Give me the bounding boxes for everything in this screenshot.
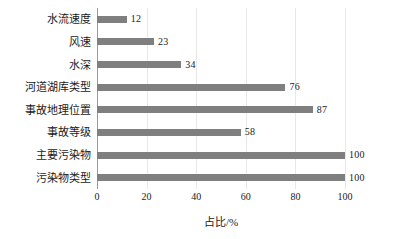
bar-chart: 水流速度风速水深河道湖库类型事故地理位置事故等级主要污染物污染物类型 12233… [0,0,408,239]
gridline [147,8,148,189]
x-axis-title: 占比/% [97,217,345,228]
gridline [196,8,197,189]
category-label: 河道湖库类型 [25,82,91,93]
bar-value-label: 76 [289,82,299,92]
bar-value-label: 100 [349,150,365,160]
bar[interactable] [97,152,345,159]
bar[interactable] [97,16,127,23]
x-axis-tick-labels: 020406080100 [0,192,408,206]
bar-row: 76 [97,84,345,91]
bar-value-label: 100 [349,173,365,183]
bar[interactable] [97,129,241,136]
gridline [246,8,247,189]
bar[interactable] [97,38,154,45]
x-tick-label: 40 [191,192,201,202]
gridline [345,8,346,189]
x-tick-label: 0 [95,192,100,202]
category-label: 风速 [69,36,91,47]
bar-row: 12 [97,16,345,23]
category-label: 水深 [69,59,91,70]
bar-row: 34 [97,61,345,68]
category-label: 事故地理位置 [25,104,91,115]
x-tick-label: 80 [290,192,300,202]
bar[interactable] [97,84,285,91]
bar-value-label: 12 [131,14,141,24]
bar-row: 87 [97,106,345,113]
bar-value-label: 58 [245,127,255,137]
category-label: 水流速度 [47,14,91,25]
category-label: 主要污染物 [36,150,91,161]
gridline [295,8,296,189]
bar-row: 100 [97,174,345,181]
bar-value-label: 23 [158,37,168,47]
category-label: 事故等级 [47,127,91,138]
plot-area: 122334768758100100 [97,8,345,189]
x-axis-title-text: 占比/% [204,217,238,228]
bar-value-label: 87 [317,105,327,115]
x-tick-label: 20 [142,192,152,202]
bar-value-label: 34 [185,60,195,70]
x-tick-label: 60 [241,192,251,202]
bar[interactable] [97,106,313,113]
bar[interactable] [97,174,345,181]
bar-row: 100 [97,152,345,159]
category-label: 污染物类型 [36,172,91,183]
bar[interactable] [97,61,181,68]
bar-row: 58 [97,129,345,136]
x-tick-label: 100 [338,192,353,202]
bar-row: 23 [97,38,345,45]
